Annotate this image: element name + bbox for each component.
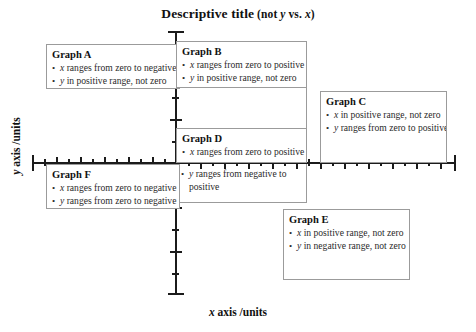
annotation-box-graph-d-continued: y ranges from negative to positive (176, 165, 307, 203)
y-axis-tick (170, 251, 182, 253)
annotation-box-graph-a: Graph A x ranges from zero to negative y… (46, 44, 180, 89)
y-axis-tick (170, 119, 182, 121)
graph-d-title: Graph D (182, 132, 301, 145)
graph-b-title: Graph B (182, 45, 301, 58)
x-axis-tick (308, 159, 310, 166)
annotation-box-graph-d: Graph D x ranges from zero to positive (176, 128, 307, 163)
chart-title-paren-open: (not (257, 8, 280, 20)
graph-e-bullets: x in positive range, not zero y in negat… (289, 227, 404, 252)
graph-d-bullets: x ranges from zero to positive (182, 146, 301, 159)
y-axis-label-var: y (10, 170, 22, 175)
y-axis-tick (172, 97, 179, 99)
graph-d-bullet-y: y ranges from negative to positive (181, 168, 302, 193)
graph-c-bullets: x in positive range, not zero y ranges f… (326, 109, 441, 134)
chart-title-paren-close: ) (311, 8, 315, 20)
chart-title-main: Descriptive title (161, 6, 254, 21)
graph-b-bullet-y: y in positive range, not zero (182, 72, 301, 85)
chart-title: Descriptive title (not y vs. x) (0, 6, 476, 22)
graph-f-bullets: x ranges from zero to negative y ranges … (52, 182, 174, 207)
x-axis-label-rest: axis /units (215, 306, 267, 318)
graph-e-bullet-y: y in negative range, not zero (289, 240, 404, 253)
graph-a-bullets: x ranges from zero to negative y in posi… (52, 62, 174, 87)
y-axis-tick (172, 273, 179, 275)
graph-d-bullets-continued: y ranges from negative to positive (181, 168, 302, 193)
graph-e-bullet-x: x in positive range, not zero (289, 227, 404, 240)
graph-c-bullet-y: y ranges from zero to positive (326, 122, 441, 135)
annotation-box-graph-e: Graph E x in positive range, not zero y … (283, 209, 410, 280)
graph-f-title: Graph F (52, 168, 174, 181)
y-axis-tick (172, 229, 179, 231)
y-axis-label-rest: axis /units (10, 117, 22, 169)
graph-b-bullet-x: x ranges from zero to positive (182, 59, 301, 72)
graph-a-bullet-y: y in positive range, not zero (52, 75, 174, 88)
graph-f-bullet-y: y ranges from zero to negative (52, 195, 174, 208)
y-axis-top-cap (168, 31, 184, 33)
graph-a-title: Graph A (52, 48, 174, 61)
x-axis-right-cap (454, 155, 456, 171)
x-axis-label: x axis /units (0, 306, 476, 318)
y-axis-bottom-cap (168, 293, 184, 295)
graph-d-bullet-x: x ranges from zero to positive (182, 146, 301, 159)
x-axis-left-cap (32, 155, 34, 171)
graph-c-title: Graph C (326, 95, 441, 108)
annotation-box-graph-c: Graph C x in positive range, not zero y … (320, 91, 447, 163)
chart-title-mid: vs. (286, 8, 305, 20)
graph-c-bullet-x: x in positive range, not zero (326, 109, 441, 122)
graph-a-bullet-x: x ranges from zero to negative (52, 62, 174, 75)
y-axis-label: y axis /units (10, 96, 22, 196)
annotation-box-graph-b: Graph B x ranges from zero to positive y… (176, 41, 307, 88)
graph-f-bullet-x: x ranges from zero to negative (52, 182, 174, 195)
graph-b-bullets: x ranges from zero to positive y in posi… (182, 59, 301, 84)
graph-e-title: Graph E (289, 213, 404, 226)
annotation-box-graph-f: Graph F x ranges from zero to negative y… (46, 164, 180, 209)
figure-canvas: Descriptive title (not y vs. x) 0 y axis… (0, 0, 476, 332)
